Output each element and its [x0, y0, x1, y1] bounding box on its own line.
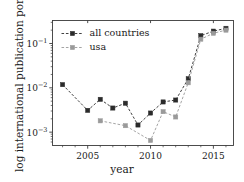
legend-marker-0 [70, 31, 74, 35]
legend-label-all-countries: all countries [90, 27, 150, 38]
chart-figure: log international publication portion ye… [0, 0, 244, 182]
legend-marker-1 [70, 45, 74, 49]
legend-label-usa: usa [90, 41, 107, 52]
